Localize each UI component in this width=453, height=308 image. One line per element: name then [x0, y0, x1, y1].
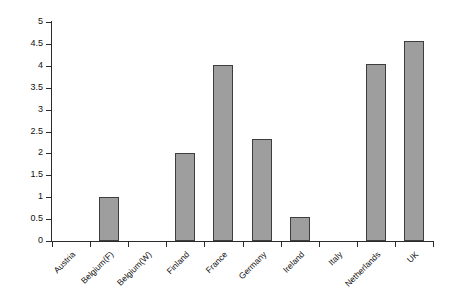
y-axis-tick-label: 1: [3, 192, 43, 201]
y-axis-tick-label: 2: [3, 148, 43, 157]
bar-chart: 00.511.522.533.544.55 AustriaBelgium(F)B…: [0, 0, 453, 308]
x-axis-tick: [90, 242, 91, 247]
x-axis-tick: [166, 242, 167, 247]
y-axis-tick-label: 4.5: [3, 39, 43, 48]
bar-uk: [404, 41, 424, 241]
y-axis-tick-label: 4: [3, 61, 43, 70]
y-axis-tick-label: 0: [3, 236, 43, 245]
x-axis-tick: [281, 242, 282, 247]
x-axis-tick: [128, 242, 129, 247]
y-axis-tick-label: 2.5: [3, 127, 43, 136]
x-axis-tick: [433, 242, 434, 247]
y-axis-tick-label: 3: [3, 105, 43, 114]
x-axis-tick: [52, 242, 53, 247]
bar-ireland: [290, 217, 310, 241]
y-axis-tick-label: 0.5: [3, 214, 43, 223]
x-axis-tick: [319, 242, 320, 247]
plot-area: [52, 22, 433, 241]
x-axis-tick: [357, 242, 358, 247]
y-axis-tick-label: 5: [3, 17, 43, 26]
y-axis-tick-label: 1.5: [3, 170, 43, 179]
bar-finland: [175, 153, 195, 241]
x-axis-tick: [204, 242, 205, 247]
x-axis-tick: [243, 242, 244, 247]
bar-belgium-f: [99, 197, 119, 241]
x-axis-tick: [395, 242, 396, 247]
bar-france: [213, 65, 233, 242]
bar-germany: [252, 139, 272, 241]
bar-netherlands: [366, 64, 386, 241]
y-axis-tick-label: 3.5: [3, 83, 43, 92]
